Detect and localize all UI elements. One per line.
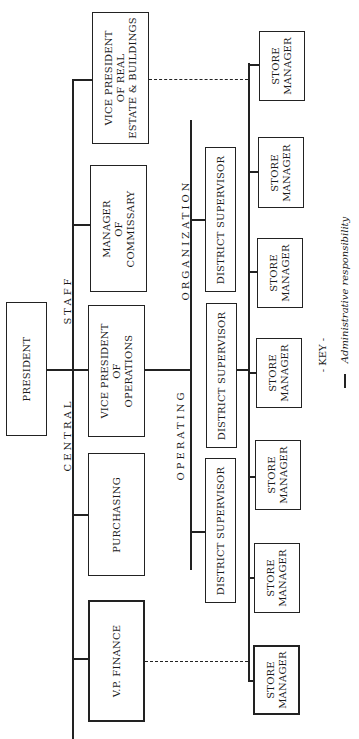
store-manager-box: STORE MANAGER — [259, 31, 305, 101]
store-manager-box: STORE MANAGER — [257, 238, 303, 308]
president-label: PRESIDENT — [21, 337, 33, 402]
connector — [248, 171, 258, 173]
staff-label: STAFF — [62, 275, 73, 324]
vp-operations-box: VICE PRESIDENT OF OPERATIONS — [88, 305, 145, 437]
connector — [72, 79, 92, 81]
vp-real-estate-label: VICE PRESIDENT OF REAL ESTATE & BUILDING… — [103, 17, 139, 139]
district-supervisor-box: DISTRICT SUPERVISOR — [205, 458, 236, 603]
connector — [248, 372, 256, 374]
dashed-link-finance — [145, 661, 248, 662]
dashed-link-real-estate — [149, 79, 248, 80]
connector — [72, 224, 90, 226]
store-manager-box: STORE MANAGER — [258, 137, 304, 208]
key-title: - KEY - — [317, 338, 328, 373]
connector — [190, 219, 205, 221]
purchasing-box: PURCHASING — [88, 453, 145, 576]
manager-commissary-label: MANAGER OF COMMISSARY — [101, 190, 137, 267]
organization-label: ORGANIZATION — [180, 180, 191, 301]
manager-commissary-box: MANAGER OF COMMISSARY — [90, 165, 147, 292]
district-supervisor-box: DISTRICT SUPERVISOR — [205, 147, 236, 292]
district-supervisor-label: DISTRICT SUPERVISOR — [215, 155, 227, 284]
operating-label: OPERATING — [175, 390, 186, 481]
store-manager-box: STORE MANAGER — [256, 338, 302, 408]
store-manager-label: STORE MANAGER — [266, 446, 290, 504]
connector — [72, 514, 88, 516]
store-manager-box: STORE MANAGER — [254, 543, 300, 613]
connector — [72, 658, 88, 660]
store-manager-label: STORE MANAGER — [268, 244, 292, 302]
connector — [248, 271, 257, 273]
vp-finance-box: V.P. FINANCE — [88, 600, 145, 722]
vp-finance-label: V.P. FINANCE — [111, 625, 123, 698]
district-supervisor-box: DISTRICT SUPERVISOR — [206, 303, 237, 448]
connector — [47, 369, 89, 371]
vp-real-estate-box: VICE PRESIDENT OF REAL ESTATE & BUILDING… — [92, 12, 149, 144]
store-manager-box: STORE MANAGER — [253, 645, 300, 715]
connector — [145, 369, 190, 371]
store-manager-label: STORE MANAGER — [265, 651, 289, 709]
store-manager-label: STORE MANAGER — [269, 144, 293, 202]
connector — [248, 680, 253, 682]
connector — [190, 531, 205, 533]
key-solid-line-sample — [344, 374, 346, 388]
store-manager-box: STORE MANAGER — [255, 440, 301, 510]
central-label: CENTRAL — [62, 399, 73, 472]
connector — [248, 64, 259, 66]
store-manager-label: STORE MANAGER — [270, 37, 294, 95]
vp-operations-label: VICE PRESIDENT OF OPERATIONS — [99, 323, 135, 418]
store-manager-label: STORE MANAGER — [265, 549, 289, 607]
connector — [248, 577, 254, 579]
district-supervisor-label: DISTRICT SUPERVISOR — [216, 311, 228, 440]
district-supervisor-label: DISTRICT SUPERVISOR — [215, 466, 227, 595]
store-manager-label: STORE MANAGER — [267, 344, 291, 402]
key-entry-label: Administrative responsibility — [339, 217, 350, 363]
connector — [248, 476, 255, 478]
purchasing-label: PURCHASING — [111, 477, 123, 553]
president-box: PRESIDENT — [6, 302, 47, 436]
